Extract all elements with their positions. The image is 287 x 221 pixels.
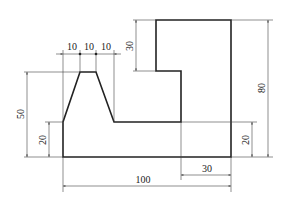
dim-text-30-bottom: 30 [202,163,212,174]
dim-text-80: 80 [256,83,267,93]
dimension-right-base-height: 20 [240,122,252,157]
dim-text-20-left: 20 [37,135,48,145]
dimension-boss-height: 50 [15,72,27,157]
dimension-left-base-height: 20 [37,122,49,157]
dimension-top-step-height: 30 [124,20,136,71]
dim-text-30-top: 30 [124,41,135,51]
dim-text-10-c: 10 [101,41,111,52]
dimension-overall-width: 100 [63,174,231,186]
dim-text-10-b: 10 [84,41,94,52]
dimension-overall-height: 80 [256,20,268,157]
dim-text-100: 100 [136,174,151,185]
technical-drawing: 100 30 80 20 30 50 20 10 10 1 [0,0,287,221]
dim-text-50: 50 [15,109,26,119]
dimension-right-step-width: 30 [181,163,231,175]
dim-text-20-right: 20 [240,135,251,145]
dimension-boss-chain: 10 10 10 [56,41,121,72]
extension-lines [24,20,273,192]
dim-text-10-a: 10 [67,41,77,52]
